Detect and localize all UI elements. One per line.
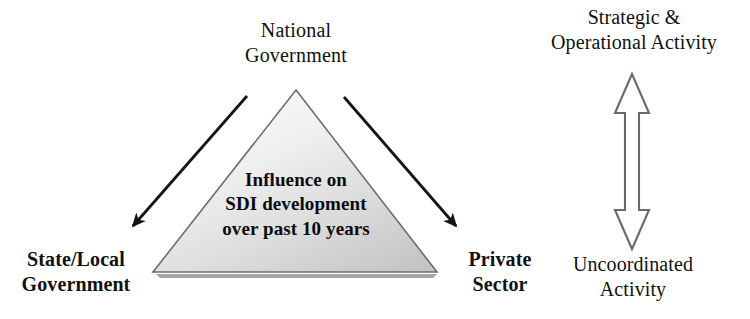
diagram-canvas: National Government State/Local Governme… xyxy=(0,0,750,319)
node-label-line: State/Local xyxy=(0,247,156,272)
triangle-caption-line: Influence on xyxy=(176,168,416,192)
triangle-caption-line: over past 10 years xyxy=(176,217,416,241)
spectrum-label-uncoordinated-activity: Uncoordinated Activity xyxy=(538,252,728,302)
spectrum-label-strategic-operational-activity: Strategic & Operational Activity xyxy=(522,5,746,55)
node-label-state-local-government: State/Local Government xyxy=(0,247,156,297)
spectrum-label-line: Uncoordinated xyxy=(538,252,728,277)
triangle-caption: Influence on SDI development over past 1… xyxy=(176,168,416,241)
node-label-line: National xyxy=(196,18,396,43)
node-label-national-government: National Government xyxy=(196,18,396,68)
spectrum-label-line: Activity xyxy=(538,277,728,302)
node-label-line: Government xyxy=(0,272,156,297)
double-headed-vertical-arrow xyxy=(615,74,649,249)
triangle-base-shadow xyxy=(156,274,437,278)
spectrum-label-line: Operational Activity xyxy=(522,30,746,55)
node-label-line: Government xyxy=(196,43,396,68)
triangle-caption-line: SDI development xyxy=(176,192,416,216)
spectrum-label-line: Strategic & xyxy=(522,5,746,30)
